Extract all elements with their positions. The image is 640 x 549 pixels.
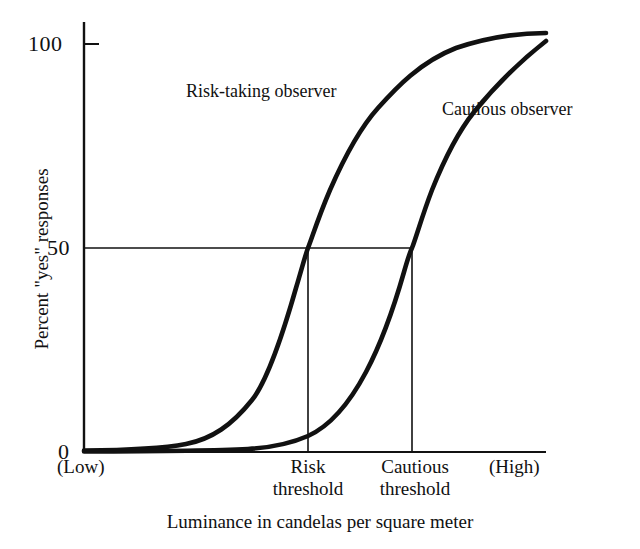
y-axis-title: Percent "yes" responses bbox=[31, 149, 53, 369]
psychometric-function-figure: 100 50 0 Percent "yes" responses Risk-ta… bbox=[0, 0, 640, 549]
x-axis-low-label: (Low) bbox=[57, 456, 104, 478]
cautious-threshold-label-line1: Cautious bbox=[345, 456, 485, 478]
risk-taking-observer-curve-label: Risk-taking observer bbox=[186, 81, 336, 102]
cautious-threshold-label: Cautious threshold bbox=[345, 456, 485, 500]
y-axis-tick-label-100: 100 bbox=[28, 31, 63, 57]
cautious-threshold-label-line2: threshold bbox=[345, 478, 485, 500]
x-axis-caption: Luminance in candelas per square meter bbox=[0, 511, 640, 533]
cautious-observer-curve-label: Cautious observer bbox=[442, 99, 572, 120]
x-axis-high-label: (High) bbox=[489, 456, 540, 478]
